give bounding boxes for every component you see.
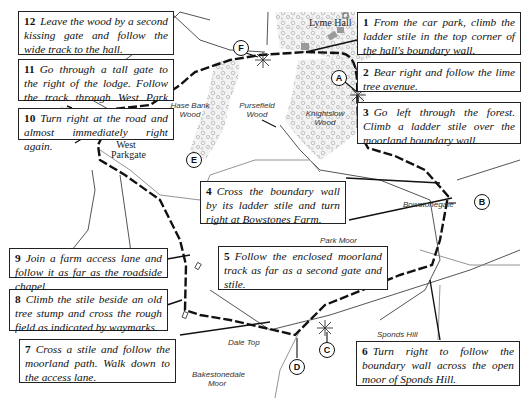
step-number: 11 [24, 63, 35, 75]
step-1: 1From the car park, climb the ladder sti… [357, 12, 521, 55]
step-text: Follow the enclosed moorland track as fa… [224, 250, 382, 290]
step-4: 4Cross the boundary wall by its ladder s… [200, 181, 346, 224]
step-text: Cross a stile and follow the moorland pa… [25, 343, 170, 383]
label-bakestonedale-moor: Bakestonedale Moor [192, 370, 242, 388]
step-number: 3 [363, 106, 369, 118]
step-number: 1 [363, 16, 369, 28]
step-number: 8 [15, 293, 21, 305]
step-number: 9 [15, 252, 21, 264]
label-bowstonegate: Bowstonegate [403, 200, 454, 209]
marker-f: F [233, 40, 249, 56]
marker-d: D [289, 359, 305, 375]
step-8: 8Climb the stile beside an old tree stum… [9, 289, 168, 331]
step-7: 7Cross a stile and follow the moorland p… [19, 339, 176, 383]
label-west-parkgate: West Parkgate [111, 140, 141, 160]
label-hase-bank-wood: Hase Bank Wood [170, 101, 210, 119]
step-text: Turn right to follow the boundary wall a… [362, 345, 514, 385]
step-number: 2 [363, 66, 369, 78]
step-number: 6 [362, 345, 368, 357]
step-text: Climb the stile beside an old tree stump… [15, 293, 162, 333]
label-knightslow-wood: Knightslow Wood [304, 109, 346, 127]
marker-e: E [186, 152, 202, 168]
step-3: 3Go left through the forest. Climb a lad… [357, 102, 521, 144]
label-dale-top: Dale Top [228, 338, 260, 347]
step-9: 9Join a farm access lane and follow it a… [9, 248, 168, 278]
step-2: 2Bear right and follow the lime tree ave… [357, 62, 521, 92]
step-10: 10Turn right at the road and almost imme… [18, 108, 174, 140]
step-text: Go left through the forest. Climb a ladd… [363, 106, 515, 146]
step-text: Bear right and follow the lime tree aven… [363, 66, 515, 92]
step-number: 5 [224, 250, 230, 262]
label-sponds-hill: Sponds Hill [377, 330, 417, 339]
marker-a: A [331, 70, 347, 86]
step-11: 11Go through a tall gate to the right of… [18, 59, 174, 101]
building-lyme-hall [301, 43, 309, 50]
step-number: 7 [25, 343, 31, 355]
marker-c: C [319, 342, 335, 358]
step-number: 4 [206, 185, 212, 197]
label-park-moor: Park Moor [320, 236, 357, 245]
step-5: 5Follow the enclosed moorland track as f… [218, 246, 388, 290]
step-number: 10 [24, 112, 35, 124]
step-text: Cross the boundary wall by its ladder st… [206, 185, 340, 225]
step-6: 6Turn right to follow the boundary wall … [356, 341, 520, 386]
label-lyme-hall: Lyme Hall [309, 18, 352, 28]
step-text: From the car park, climb the ladder stil… [363, 16, 515, 56]
step-number: 12 [24, 15, 35, 27]
step-text: Leave the wood by a second kissing gate … [24, 15, 168, 55]
step-12: 12Leave the wood by a second kissing gat… [18, 11, 174, 55]
label-pursefield-wood: Pursefield Wood [237, 101, 277, 119]
marker-b: B [474, 194, 490, 210]
